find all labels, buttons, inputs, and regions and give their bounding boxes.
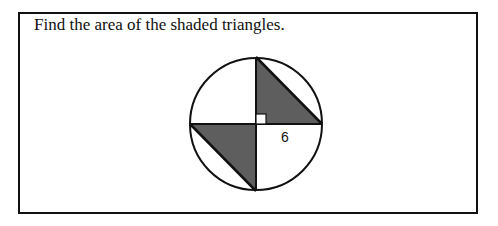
radius-label: 6 — [281, 129, 289, 145]
right-angle-marker — [256, 114, 266, 124]
geometry-figure: 6 — [0, 0, 498, 226]
